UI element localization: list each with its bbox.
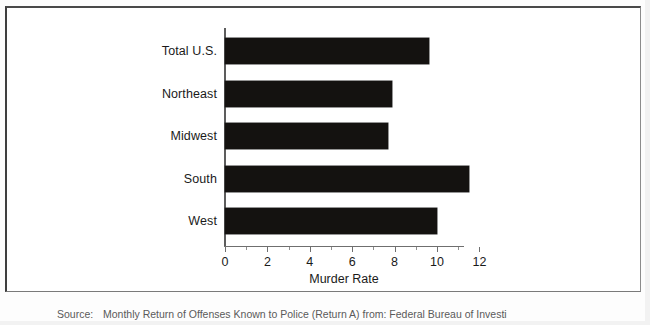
axis-tick-major (267, 247, 268, 252)
category-label: Midwest (67, 130, 217, 142)
source-label: Source: (57, 308, 103, 321)
category-label: South (67, 173, 217, 185)
axis-tick-minor (373, 247, 374, 250)
bar-chart: Total U.S.NortheastMidwestSouthWest 0246… (7, 8, 643, 294)
axis-tick-minor (458, 247, 459, 250)
axis-tick-label: 8 (380, 255, 410, 269)
source-text: Monthly Return of Offenses Known to Poli… (103, 308, 507, 320)
axis-tick-major (225, 247, 226, 252)
bar (225, 81, 392, 107)
figure-frame: Total U.S.NortheastMidwestSouthWest 0246… (5, 6, 641, 292)
axis-tick-major (479, 247, 480, 252)
axis-tick-label: 6 (337, 255, 367, 269)
scanned-page: Total U.S.NortheastMidwestSouthWest 0246… (0, 0, 650, 325)
bar (225, 38, 429, 64)
axis-tick-label: 12 (464, 255, 494, 269)
category-label: West (67, 215, 217, 227)
source-note: Source:Monthly Return of Offenses Known … (57, 308, 647, 321)
category-label: Northeast (67, 88, 217, 100)
axis-tick-minor (331, 247, 332, 250)
category-axis-labels: Total U.S.NortheastMidwestSouthWest (67, 8, 217, 294)
axis-tick-minor (246, 247, 247, 250)
axis-tick-major (352, 247, 353, 252)
bar (225, 208, 437, 234)
axis-tick-major (395, 247, 396, 252)
axis-tick-minor (416, 247, 417, 250)
axis-tick-label: 2 (252, 255, 282, 269)
axis-tick-minor (289, 247, 290, 250)
bar (225, 166, 469, 192)
category-label: Total U.S. (67, 45, 217, 57)
value-axis-title: Murder Rate (224, 272, 464, 286)
axis-tick-label: 4 (295, 255, 325, 269)
axis-tick-major (437, 247, 438, 252)
axis-tick-major (310, 247, 311, 252)
plot-area (225, 30, 485, 242)
page-edge-bottom (0, 321, 650, 325)
axis-tick-label: 10 (422, 255, 452, 269)
axis-tick-label: 0 (210, 255, 240, 269)
value-axis-line (224, 246, 464, 247)
page-edge-right (645, 0, 650, 325)
bar (225, 123, 388, 149)
